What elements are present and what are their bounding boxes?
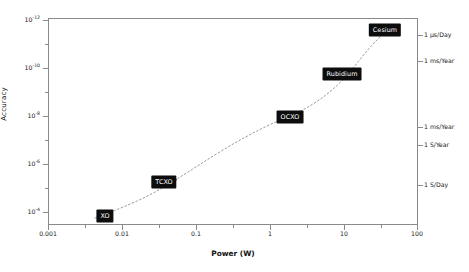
y-tick-label-2: 10-8 <box>28 113 40 119</box>
right-axis-label-2: 1 ms/Year <box>424 124 454 130</box>
right-tick-3 <box>418 145 423 146</box>
x-tick-label-5: 100 <box>411 231 423 237</box>
right-axis-label-1: 1 ms/Year <box>424 58 454 64</box>
x-tick-label-2: 0.1 <box>191 231 201 237</box>
x-tick-minor-4 <box>381 225 382 228</box>
point-label-cesium: Cesium <box>369 24 401 37</box>
x-tick-minor-1 <box>159 225 160 228</box>
right-axis-label-4: 1 S/Day <box>424 182 448 188</box>
x-tick-label-3: 1 <box>268 231 272 237</box>
x-tick-label-4: 10 <box>340 231 348 237</box>
y-axis-title: Accuracy <box>0 87 8 121</box>
y-tick-label-3: 10-6 <box>28 161 40 167</box>
y-tick-major-0 <box>43 20 48 21</box>
x-tick-minor-2 <box>233 225 234 228</box>
y-tick-label-0: 10-12 <box>25 17 40 23</box>
right-tick-4 <box>418 185 423 186</box>
right-axis-label-3: 1 S/Year <box>424 142 449 148</box>
x-tick-label-1: 0.01 <box>115 231 129 237</box>
right-axis-label-0: 1 µs/Day <box>424 32 451 38</box>
y-tick-minor-0 <box>45 44 48 45</box>
x-tick-minor-3 <box>307 225 308 228</box>
right-tick-0 <box>418 35 423 36</box>
plot-area <box>48 18 418 225</box>
y-tick-major-3 <box>43 164 48 165</box>
x-tick-minor-0 <box>85 225 86 228</box>
y-tick-major-4 <box>43 212 48 213</box>
x-axis-title: Power (W) <box>211 249 254 258</box>
y-tick-minor-2 <box>45 140 48 141</box>
y-tick-major-1 <box>43 68 48 69</box>
right-tick-2 <box>418 127 423 128</box>
y-tick-minor-3 <box>45 188 48 189</box>
y-tick-major-2 <box>43 116 48 117</box>
chart-figure: 10-12 10-10 10-8 10-6 10-4 0.001 0.01 0.… <box>0 0 469 272</box>
point-label-xo: XO <box>96 210 113 223</box>
point-label-rubidium: Rubidium <box>323 68 362 81</box>
right-tick-1 <box>418 61 423 62</box>
y-tick-label-1: 10-10 <box>25 65 40 71</box>
point-label-ocxo: OCXO <box>277 111 304 124</box>
y-tick-label-4: 10-4 <box>28 209 40 215</box>
y-tick-minor-1 <box>45 92 48 93</box>
x-tick-label-0: 0.001 <box>39 231 57 237</box>
point-label-tcxo: TCXO <box>151 176 176 189</box>
